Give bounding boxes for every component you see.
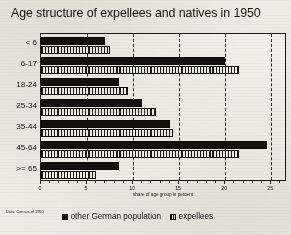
x-tick-minor-18: [206, 181, 207, 183]
x-tick-minor-1: [49, 181, 50, 183]
x-tick-label-25: 25: [267, 185, 273, 191]
x-tick-major-0: [40, 181, 41, 184]
x-tick-minor-9: [123, 181, 124, 183]
x-tick-minor-23: [252, 181, 253, 183]
bar-native: [41, 57, 225, 65]
chart-title: Age structure of expellees and natives i…: [11, 6, 283, 20]
x-tick-label-10: 10: [129, 185, 135, 191]
bar-expellee: [41, 129, 173, 137]
x-tick-major-5: [86, 181, 87, 184]
category-axis-labels: < 66-1718-2425-3435-4445-64>= 65: [0, 33, 37, 181]
bar-native: [41, 120, 170, 128]
x-tick-minor-26: [279, 181, 280, 183]
x-tick-minor-11: [141, 181, 142, 183]
plot-area: [40, 33, 286, 181]
x-tick-minor-4: [77, 181, 78, 183]
x-tick-minor-7: [104, 181, 105, 183]
x-tick-minor-14: [169, 181, 170, 183]
category-label: 25-34: [16, 101, 37, 110]
gridline-25: [271, 34, 272, 180]
x-tick-major-20: [224, 181, 225, 184]
legend-item-native: other German population: [62, 212, 161, 221]
filled-square-swatch-icon: [62, 214, 68, 220]
hatched-square-swatch-icon: [170, 214, 176, 220]
bar-native: [41, 37, 105, 45]
x-tick-label-20: 20: [221, 185, 227, 191]
category-label: 35-44: [16, 122, 37, 131]
x-tick-label-5: 5: [85, 185, 88, 191]
source-note: Data: Census of 1950: [6, 209, 44, 214]
bar-native: [41, 78, 119, 86]
x-tick-major-15: [178, 181, 179, 184]
chart-legend: other German population expellees: [62, 212, 213, 221]
bar-expellee: [41, 150, 239, 158]
bars-container: [41, 34, 285, 180]
x-tick-minor-8: [114, 181, 115, 183]
x-tick-minor-2: [58, 181, 59, 183]
x-tick-minor-19: [215, 181, 216, 183]
gridline-20: [225, 34, 226, 180]
x-tick-minor-24: [261, 181, 262, 183]
x-tick-major-10: [132, 181, 133, 184]
x-tick-minor-6: [95, 181, 96, 183]
x-tick-minor-12: [150, 181, 151, 183]
bar-native: [41, 141, 267, 149]
bar-expellee: [41, 87, 128, 95]
x-tick-minor-16: [187, 181, 188, 183]
x-tick-minor-17: [197, 181, 198, 183]
legend-item-expellees: expellees: [170, 212, 213, 221]
bar-expellee: [41, 108, 156, 116]
x-tick-minor-21: [233, 181, 234, 183]
x-tick-label-0: 0: [39, 185, 42, 191]
category-label: >= 65: [16, 164, 37, 173]
category-label: 45-64: [16, 143, 37, 152]
x-tick-minor-13: [160, 181, 161, 183]
x-axis-label: share of age group in percent: [40, 192, 286, 197]
x-tick-minor-3: [68, 181, 69, 183]
x-tick-major-25: [270, 181, 271, 184]
category-label: 6-17: [21, 59, 37, 68]
legend-label-native: other German population: [71, 212, 162, 221]
bar-expellee: [41, 46, 110, 54]
category-label: < 6: [26, 38, 37, 47]
bar-native: [41, 99, 142, 107]
category-label: 18-24: [16, 80, 37, 89]
x-tick-minor-22: [243, 181, 244, 183]
bar-expellee: [41, 66, 239, 74]
x-tick-label-15: 15: [175, 185, 181, 191]
gridline-15: [179, 34, 180, 180]
legend-label-expellees: expellees: [179, 212, 214, 221]
chart-figure: Age structure of expellees and natives i…: [0, 0, 291, 235]
bar-expellee: [41, 171, 96, 179]
bar-native: [41, 162, 119, 170]
